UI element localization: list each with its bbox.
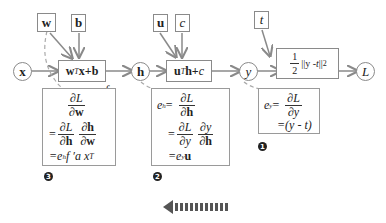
node-L: L	[356, 62, 375, 81]
node-y-label: y	[246, 64, 252, 80]
param-t-label: t	[260, 12, 264, 28]
p3-l2a-den: ∂h	[58, 135, 75, 148]
param-b: b	[71, 14, 86, 32]
op-linear-2: uT h+c	[166, 60, 212, 82]
p2-l1-den: ∂h	[179, 106, 196, 119]
p2-l3: =e	[168, 149, 181, 164]
p1-l2: =(y - t)	[277, 118, 312, 133]
loss-den: 2	[290, 64, 299, 77]
node-y: y	[239, 62, 258, 81]
param-t: t	[254, 11, 269, 29]
node-x: x	[13, 62, 32, 81]
node-h-label: h	[137, 64, 144, 80]
p3-l2b-num: ∂h	[79, 121, 96, 135]
p3-l1-num: ∂L	[68, 92, 85, 106]
p2-l2a-den: ∂y	[177, 135, 192, 148]
param-w-label: w	[42, 15, 51, 31]
op-loss: 12 ||y - t||2	[276, 48, 339, 79]
op-linear-1: wTx+b	[58, 60, 106, 82]
step-badge-3: 3	[44, 172, 53, 181]
p2-l2b-num: ∂y	[198, 121, 213, 135]
loss-num: 1	[290, 50, 299, 64]
p3-l1-den: ∂w	[67, 106, 86, 119]
p3-l3: =e	[49, 149, 62, 164]
param-c-label: c	[180, 15, 186, 31]
gradient-panel-y: ey=∂L∂y =(y - t)	[258, 88, 320, 134]
step-badge-1: 1	[258, 142, 267, 151]
p2-l2a-num: ∂L	[177, 121, 194, 135]
p3-l3-sup: T	[89, 152, 93, 161]
gradient-panel-w: ∂L∂w =∂L∂h∂h∂w =ehf ′a xT	[42, 88, 116, 166]
loss-sup: 2	[323, 59, 327, 68]
p2-l2b-den: ∂h	[197, 135, 214, 148]
param-u: u	[153, 14, 168, 32]
p2-eq: =	[166, 98, 173, 113]
param-u-label: u	[157, 15, 164, 31]
backprop-arrow	[163, 200, 228, 214]
op2-c: c	[199, 64, 204, 79]
param-w: w	[37, 13, 56, 32]
p3-l2b-den: ∂w	[78, 135, 97, 148]
gradient-panel-h: eh=∂L∂h =∂L∂y∂y∂h =eyu	[151, 88, 230, 166]
p1-l1-num: ∂L	[285, 92, 302, 106]
node-h: h	[131, 62, 150, 81]
p2-eq2: =	[168, 127, 175, 142]
p3-l2a-num: ∂L	[58, 121, 75, 135]
loss-expr-a: ||y -	[301, 58, 316, 69]
step-badge-2: 2	[153, 172, 162, 181]
node-L-label: L	[362, 64, 369, 80]
param-c: c	[175, 14, 190, 32]
param-b-label: b	[75, 15, 82, 31]
p3-eq: =	[49, 127, 56, 142]
p1-eq: =	[272, 98, 279, 113]
op1-rest: x+b	[79, 64, 99, 79]
p2-l1-num: ∂L	[179, 92, 196, 106]
loss-half: 12	[290, 50, 299, 77]
op2-h: h+	[185, 64, 199, 79]
node-x-label: x	[19, 64, 26, 80]
op2-u: u	[174, 64, 181, 79]
p2-l3-rest: u	[185, 149, 192, 164]
op1-w: w	[66, 64, 75, 79]
p3-l3-rest: f ′a x	[66, 149, 89, 164]
